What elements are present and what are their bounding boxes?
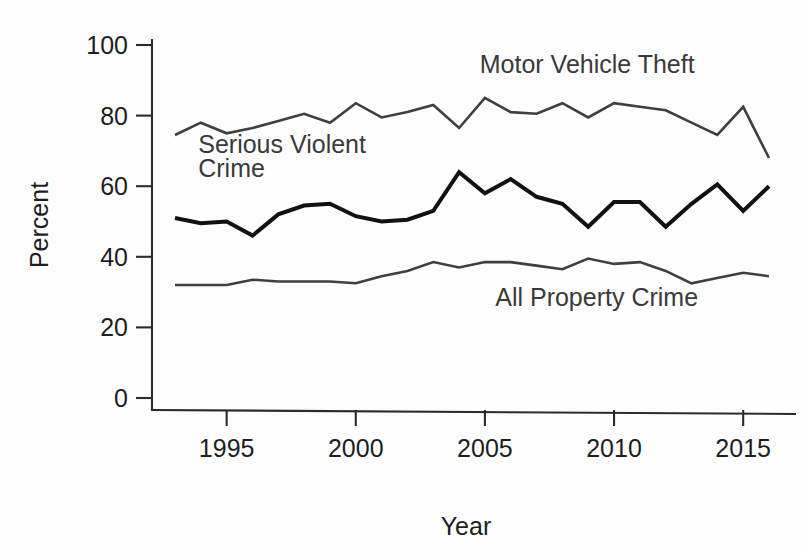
y-axis-ticks: 020406080100 [86, 31, 152, 412]
x-axis-ticks: 19952000200520102015 [199, 410, 771, 462]
y-axis-title: Percent [25, 182, 53, 268]
x-tick-label: 2005 [457, 434, 513, 462]
x-tick-label: 2015 [715, 434, 771, 462]
series-annotations: Motor Vehicle TheftSerious ViolentCrimeA… [198, 50, 698, 311]
series-label: All Property Crime [495, 283, 698, 311]
series-label: Crime [198, 154, 265, 182]
y-tick-label: 60 [100, 172, 128, 200]
y-tick-label: 40 [100, 243, 128, 271]
x-axis-line [152, 410, 795, 414]
x-axis-title: Year [441, 512, 492, 540]
y-tick-label: 20 [100, 313, 128, 341]
x-tick-label: 2000 [328, 434, 384, 462]
series-line [175, 259, 769, 285]
x-tick-label: 1995 [199, 434, 255, 462]
x-tick-label: 2010 [586, 434, 642, 462]
line-chart-canvas: 020406080100 19952000200520102015 Motor … [0, 0, 802, 555]
y-tick-label: 0 [114, 384, 128, 412]
series-label: Motor Vehicle Theft [480, 50, 695, 78]
chart-figure: 020406080100 19952000200520102015 Motor … [0, 0, 802, 555]
y-tick-label: 100 [86, 31, 128, 59]
data-series-group [175, 98, 769, 285]
y-tick-label: 80 [100, 102, 128, 130]
